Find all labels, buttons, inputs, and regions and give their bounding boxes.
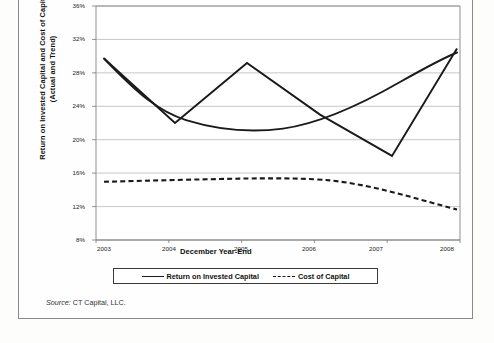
chart-legend: Return on Invested Capital Cost of Capit…	[113, 268, 378, 284]
y-axis-ticks	[92, 6, 96, 240]
legend-label-roic: Return on Invested Capital	[167, 272, 259, 281]
legend-solid-line-swatch-icon	[142, 276, 164, 277]
source-note-text: CT Capital, LLC.	[71, 298, 126, 307]
x-axis-title: December Year-End	[180, 247, 380, 256]
x-tick-label-2003: 2003	[89, 245, 119, 252]
legend-entry-roic: Return on Invested Capital	[142, 272, 259, 281]
x-tick-label-2008: 2008	[432, 245, 462, 252]
legend-label-cost-of-capital: Cost of Capital	[298, 272, 350, 281]
legend-entry-cost-of-capital: Cost of Capital	[273, 272, 350, 281]
source-note-prefix: Source:	[46, 298, 71, 307]
y-tick-label-32: 32%	[63, 35, 85, 42]
y-tick-label-36: 36%	[63, 2, 85, 9]
y-tick-label-28: 28%	[63, 69, 85, 76]
y-tick-label-16: 16%	[63, 169, 85, 176]
y-tick-label-20: 20%	[63, 136, 85, 143]
scanned-page: Return on Invested Capital and Cost of C…	[0, 0, 494, 343]
y-tick-label-8: 8%	[63, 236, 85, 243]
chart-figure: Return on Invested Capital and Cost of C…	[0, 0, 494, 343]
legend-dashed-line-swatch-icon	[273, 276, 295, 277]
plot-background	[96, 6, 460, 240]
source-note: Source: CT Capital, LLC.	[46, 298, 126, 307]
y-tick-label-24: 24%	[63, 102, 85, 109]
y-tick-label-12: 12%	[63, 203, 85, 210]
